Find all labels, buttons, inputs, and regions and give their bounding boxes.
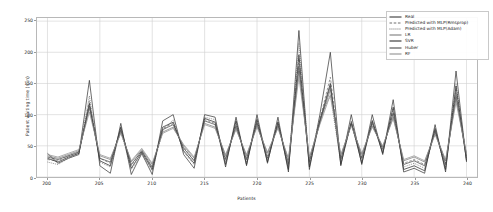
legend-item-label: SVR [405,38,414,44]
series-line [47,55,466,171]
x-tick-mark [310,178,311,180]
legend-line-swatch [389,26,402,32]
legend-item-label: Predicted with MLP(Adam) [405,26,461,32]
legend-item[interactable]: RF [389,51,485,57]
x-tick-mark [204,178,205,180]
x-tick-label: 240 [463,181,472,186]
y-tick-label: 200 [24,49,33,54]
x-tick-mark [47,178,48,180]
chart-legend: RealPredicted with MLP(Rmsprop)Predicted… [386,11,489,60]
x-tick-mark [467,178,468,180]
x-tick-mark [362,178,363,180]
legend-item-label: LR [405,32,410,38]
x-axis-label: Patients [0,196,493,201]
legend-line-swatch [389,32,402,38]
legend-line-swatch [389,20,402,26]
y-axis-label: Patient waiting time (min) [25,76,30,136]
y-tick-label: 250 [24,18,33,23]
x-tick-label: 220 [253,181,262,186]
x-tick-label: 230 [358,181,367,186]
x-tick-label: 200 [42,181,51,186]
series-line [47,66,466,167]
legend-line-swatch [389,51,402,57]
y-tick-mark [34,178,36,179]
x-tick-label: 215 [200,181,209,186]
legend-line-swatch [389,38,402,44]
x-tick-mark [99,178,100,180]
x-tick-mark [415,178,416,180]
x-tick-label: 205 [95,181,104,186]
legend-item-label: Real [405,14,414,20]
x-tick-mark [152,178,153,180]
y-tick-label: 50 [27,144,33,149]
x-tick-label: 225 [305,181,314,186]
legend-line-swatch [389,14,402,20]
series-line [47,43,466,171]
series-line [47,71,466,165]
chart-figure: 0501001502002502002052102152202252302352… [0,0,493,212]
y-tick-label: 0 [30,176,33,181]
x-tick-mark [257,178,258,180]
x-tick-label: 235 [410,181,419,186]
legend-item-label: RF [405,51,410,57]
legend-item-label: Predicted with MLP(Rmsprop) [405,20,468,26]
legend-item-label: Huber [405,45,418,51]
x-tick-label: 210 [147,181,156,186]
series-line [47,59,466,169]
legend-line-swatch [389,45,402,51]
